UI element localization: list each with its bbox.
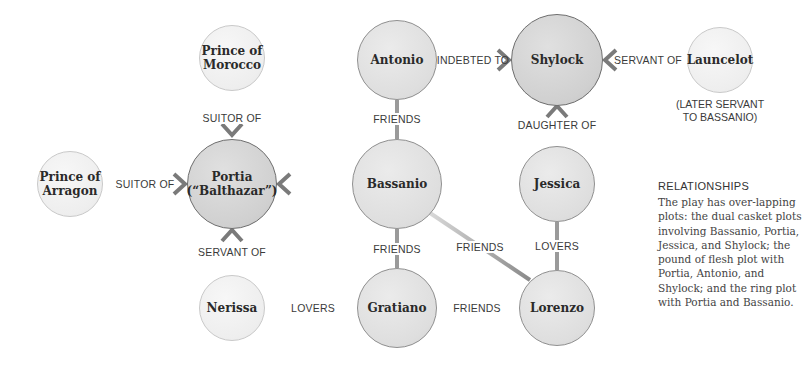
edge-label-jessica-shylock: DAUGHTER OF xyxy=(516,119,599,131)
node-antonio: Antonio xyxy=(357,20,437,100)
node-launcelot: Launcelot xyxy=(687,27,753,93)
node-label: Bassanio xyxy=(367,177,428,191)
node-label: Antonio xyxy=(371,53,424,67)
launcelot-note: (LATER SERVANT TO BASSANIO) xyxy=(670,98,770,124)
node-label: Gratiano xyxy=(368,301,427,315)
node-label: Lorenzo xyxy=(530,301,584,315)
edge-label-gratiano-lorenzo: FRIENDS xyxy=(451,302,503,314)
node-jessica: Jessica xyxy=(519,146,595,222)
node-label: Prince of Arragon xyxy=(40,170,101,198)
edge-label-jessica-lorenzo: LOVERS xyxy=(533,240,581,252)
edge-label-bassanio-gratiano: FRIENDS xyxy=(371,243,423,255)
edge-label-antonio-shylock: INDEBTED TO xyxy=(435,54,511,66)
node-label: Prince of Morocco xyxy=(202,44,263,72)
node-gratiano: Gratiano xyxy=(357,268,437,348)
character-relationship-diagram: SUITOR OF INDEBTED TO SERVANT OF FRIENDS… xyxy=(0,0,804,365)
node-nerissa: Nerissa xyxy=(199,275,265,341)
node-label: Shylock xyxy=(531,53,584,67)
edge-label-nerissa-gratiano: LOVERS xyxy=(289,302,337,314)
edge-label-launcelot-shylock: SERVANT OF xyxy=(612,54,684,66)
sidebar-body: The play has over-lapping plots: the dua… xyxy=(658,195,804,309)
node-prince-of-arragon: Prince of Arragon xyxy=(37,151,103,217)
edge-label-morocco-portia: SUITOR OF xyxy=(201,112,264,124)
sidebar-title: RELATIONSHIPS xyxy=(658,180,804,192)
node-shylock: Shylock xyxy=(511,14,603,106)
edge-label-nerissa-portia: SERVANT OF xyxy=(196,246,268,258)
node-bassanio: Bassanio xyxy=(352,139,442,229)
node-label: Portia (“Balthazar”) xyxy=(186,170,277,198)
node-portia: Portia (“Balthazar”) xyxy=(187,139,277,229)
node-label: Nerissa xyxy=(207,301,258,315)
relationships-sidebar: RELATIONSHIPS The play has over-lapping … xyxy=(658,180,804,309)
node-lorenzo: Lorenzo xyxy=(519,270,595,346)
edge-label-bassanio-lorenzo: FRIENDS xyxy=(454,241,506,253)
node-label: Jessica xyxy=(534,177,580,191)
edge-label-antonio-bassanio: FRIENDS xyxy=(371,113,423,125)
node-prince-of-morocco: Prince of Morocco xyxy=(199,25,265,91)
node-label: Launcelot xyxy=(687,53,754,67)
edge-label-arragon-portia: SUITOR OF xyxy=(114,178,177,190)
